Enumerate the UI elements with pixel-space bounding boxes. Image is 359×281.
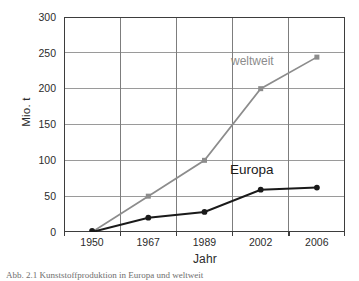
figure-caption: Abb. 2.1 Kunststoffproduktion in Europa … bbox=[6, 270, 356, 281]
x-tick-2002: 2002 bbox=[233, 236, 289, 248]
x-tick-1989: 1989 bbox=[176, 236, 232, 248]
y-tick-300: 300 bbox=[12, 12, 56, 22]
series-markers-weltweit bbox=[90, 55, 320, 232]
chart-svg bbox=[64, 17, 345, 232]
y-tick-0: 0 bbox=[12, 227, 56, 237]
chart-figure: Mio. t 300 250 200 150 100 50 0 bbox=[0, 0, 359, 281]
y-tick-250: 250 bbox=[12, 48, 56, 58]
x-tick-1967: 1967 bbox=[120, 236, 176, 248]
series-label-weltweit: weltweit bbox=[231, 54, 274, 68]
y-tick-200: 200 bbox=[12, 83, 56, 93]
y-tick-150: 150 bbox=[12, 119, 56, 129]
x-axis-title: Jahr bbox=[64, 252, 346, 266]
x-tick-1950: 1950 bbox=[64, 236, 120, 248]
y-tick-50: 50 bbox=[12, 191, 56, 201]
y-axis-tick-labels: 300 250 200 150 100 50 0 bbox=[8, 0, 56, 281]
y-tick-100: 100 bbox=[12, 155, 56, 165]
series-label-europa: Europa bbox=[230, 162, 274, 177]
x-tick-2006: 2006 bbox=[289, 236, 345, 248]
horizontal-gridlines bbox=[64, 53, 345, 196]
plot-area bbox=[64, 17, 345, 232]
x-axis-tick-labels: 1950 1967 1989 2002 2006 bbox=[64, 236, 346, 252]
series-line-weltweit bbox=[92, 57, 317, 232]
